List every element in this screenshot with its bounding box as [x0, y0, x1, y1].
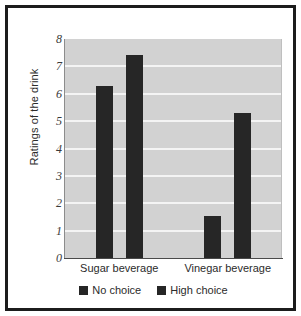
chart-legend: No choiceHigh choice — [8, 284, 299, 296]
y-tick-label: 3 — [46, 171, 62, 181]
y-tick-label: 8 — [46, 34, 62, 44]
plot-area — [65, 39, 282, 258]
chart-screenshot: 876543210 Ratings of the drink Sugar bev… — [0, 0, 301, 316]
y-tick-label: 7 — [46, 61, 62, 71]
y-tick-label: 4 — [46, 144, 62, 154]
legend-item: High choice — [157, 284, 227, 296]
x-tick-label: Vinegar beverage — [168, 262, 288, 274]
x-axis-ticks: Sugar beverageVinegar beverage — [65, 262, 282, 280]
legend-swatch-icon — [157, 286, 166, 295]
legend-item: No choice — [79, 284, 141, 296]
y-tick-label: 1 — [46, 226, 62, 236]
bar — [126, 55, 143, 258]
bar — [234, 113, 251, 258]
x-axis-line — [64, 258, 283, 259]
y-tick-label: 5 — [46, 116, 62, 126]
figure-frame: 876543210 Ratings of the drink Sugar bev… — [5, 5, 296, 311]
legend-label: High choice — [170, 284, 227, 296]
y-tick-label: 2 — [46, 198, 62, 208]
gridline — [65, 65, 281, 67]
x-tick-label: Sugar beverage — [59, 262, 179, 274]
bar — [96, 86, 113, 258]
legend-label: No choice — [92, 284, 141, 296]
y-axis-ticks: 876543210 — [42, 39, 62, 258]
y-axis-title: Ratings of the drink — [28, 42, 40, 192]
y-tick-label: 6 — [46, 89, 62, 99]
legend-swatch-icon — [79, 286, 88, 295]
bar — [204, 216, 221, 258]
